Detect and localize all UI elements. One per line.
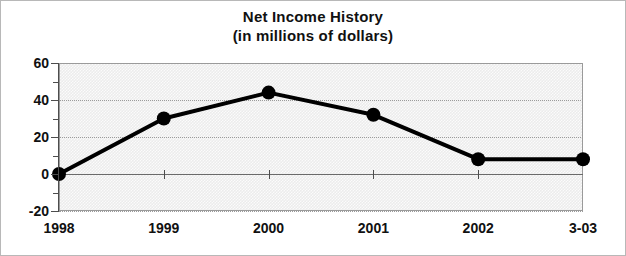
y-axis-label-40: 40	[5, 92, 49, 108]
data-point-2002	[471, 152, 485, 166]
gridline--20	[59, 211, 583, 212]
y-minor-tick-30	[53, 119, 59, 120]
x-axis-label-1999: 1999	[148, 220, 179, 236]
x-axis-label-1998: 1998	[43, 220, 74, 236]
chart-title: Net Income History	[1, 7, 625, 26]
data-point-3-03	[576, 152, 590, 166]
series-line	[59, 93, 583, 174]
y-axis-spine	[58, 63, 59, 212]
chart-figure: Net Income History (in millions of dolla…	[0, 0, 626, 256]
plot-wrapper	[59, 63, 583, 211]
y-minor-tick-10	[53, 156, 59, 157]
data-point-2001	[366, 108, 380, 122]
y-axis-label--20: -20	[5, 203, 49, 219]
data-series-net-income	[59, 63, 583, 211]
x-axis-label-2001: 2001	[358, 220, 389, 236]
y-axis-label-0: 0	[5, 166, 49, 182]
y-axis-label-20: 20	[5, 129, 49, 145]
chart-subtitle: (in millions of dollars)	[1, 26, 625, 45]
y-tick-20	[51, 137, 59, 138]
chart-title-block: Net Income History (in millions of dolla…	[1, 7, 625, 45]
y-tick--20	[51, 211, 59, 212]
x-axis-label-2000: 2000	[253, 220, 284, 236]
y-minor-tick--10	[53, 193, 59, 194]
data-point-1999	[157, 112, 171, 126]
x-axis-label-3-03: 3-03	[569, 220, 597, 236]
y-tick-0	[51, 174, 59, 175]
y-minor-tick-50	[53, 82, 59, 83]
y-tick-60	[51, 63, 59, 64]
y-tick-40	[51, 100, 59, 101]
data-point-2000	[262, 86, 276, 100]
x-axis-label-2002: 2002	[463, 220, 494, 236]
y-axis-label-60: 60	[5, 55, 49, 71]
